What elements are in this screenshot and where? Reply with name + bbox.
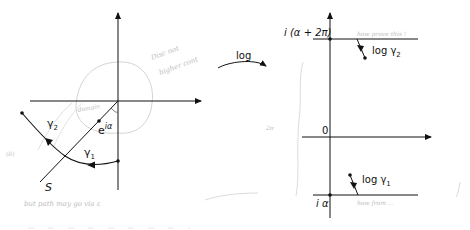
- pencil-note-8: (0): [6, 150, 15, 157]
- right-strip-plane: i (α + 2π) 0 i α log γ2 log γ1: [284, 13, 431, 218]
- pencil-note-3: domain: [77, 102, 101, 113]
- gamma1-arrowhead: [87, 162, 95, 169]
- top-line-label: i (α + 2π): [284, 27, 331, 38]
- pencil-disc: [76, 62, 153, 133]
- pencil-note-1: Disc not: [149, 44, 180, 62]
- bottom-line-label: i α: [316, 198, 329, 209]
- gamma1-label: γ1: [84, 146, 95, 161]
- ray-label: S: [45, 181, 52, 194]
- pencil-note-2: higher cont: [158, 55, 199, 77]
- curve-gamma: [22, 113, 118, 164]
- pencil-note-4: but path may go via ε: [24, 200, 101, 208]
- left-complex-plane: S eiα γ1 γ2: [20, 13, 201, 194]
- diagram-canvas: S eiα γ1 γ2 log i (α + 2π) 0 i α: [0, 0, 470, 230]
- pencil-note-5: how prove this !: [357, 30, 407, 38]
- origin-label: 0: [322, 125, 328, 136]
- pencil-annotations: Disc not higher cont domain but path may…: [6, 30, 460, 228]
- point-label: eiα: [98, 122, 113, 137]
- point-e-ialpha: [97, 119, 101, 123]
- log-gamma1-label: log γ1: [362, 174, 391, 188]
- pencil-note-7: 2π: [265, 124, 275, 131]
- pencil-note-6: how from ...: [357, 199, 394, 207]
- log-gamma2-label: log γ2: [372, 45, 401, 59]
- log-map-arrow: log: [218, 50, 266, 68]
- log-label: log: [236, 50, 251, 61]
